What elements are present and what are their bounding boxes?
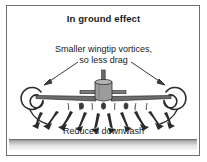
fuselage-top bbox=[95, 79, 112, 84]
annotation-line-2: so less drag bbox=[0, 55, 207, 66]
downwash-caption: Reduced downwash bbox=[0, 126, 207, 136]
downwash-streaks bbox=[68, 103, 147, 111]
figure-title: In ground effect bbox=[0, 13, 207, 24]
annotation-line-1: Smaller wingtip vortices, bbox=[55, 44, 152, 54]
ground-plane bbox=[9, 139, 197, 150]
diagram-artwork bbox=[0, 0, 207, 162]
vortex-annotation: Smaller wingtip vortices, so less drag bbox=[0, 44, 207, 66]
right-wing bbox=[111, 96, 171, 102]
left-wing bbox=[36, 96, 96, 102]
ground-effect-figure: In ground effect Smaller wingtip vortice… bbox=[0, 0, 207, 162]
